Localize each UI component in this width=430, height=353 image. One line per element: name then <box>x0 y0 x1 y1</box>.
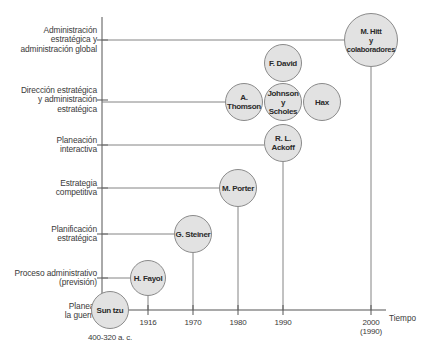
level-label-admin-estrategica: Administraciónestratégica yadministració… <box>20 26 97 54</box>
node-m-porter: M. Porter <box>219 169 257 207</box>
node-hax: Hax <box>303 83 341 121</box>
node-f-david: F. David <box>264 44 302 82</box>
node-h-fayol: H. Fayol <box>130 260 166 296</box>
year-label: 400-320 a. c. <box>88 333 132 342</box>
year-label: 2000(1990) <box>360 318 382 336</box>
year-label: 1980 <box>230 318 247 327</box>
level-label-planificacion-estrategica: Planificaciónestratégica <box>51 225 97 244</box>
year-label: 1970 <box>185 318 202 327</box>
node-g-steiner: G. Steiner <box>174 215 212 253</box>
level-label-direccion-estrategica: Dirección estratégicay administraciónest… <box>21 86 97 114</box>
level-label-estrategia-competitiva: Estrategiacompetitiva <box>56 179 97 198</box>
node-a-thomson: A.Thomson <box>225 83 263 121</box>
node-sun-tzu: Sun tzu <box>91 291 129 329</box>
level-label-planeacion-interactiva: Planeacióninteractiva <box>57 136 97 155</box>
year-label: 1916 <box>140 318 157 327</box>
level-label-proceso-administrativo: Proceso administrativo(previsión) <box>14 269 97 288</box>
year-label: 1990 <box>275 318 292 327</box>
node-johnson-scholes: JohnsonyScholes <box>264 83 302 121</box>
node-rl-ackoff: R. L.Ackoff <box>264 124 302 162</box>
x-axis-label: Tiempo <box>389 314 416 323</box>
node-m-hitt: M. Hittycolaboradores <box>344 13 398 67</box>
